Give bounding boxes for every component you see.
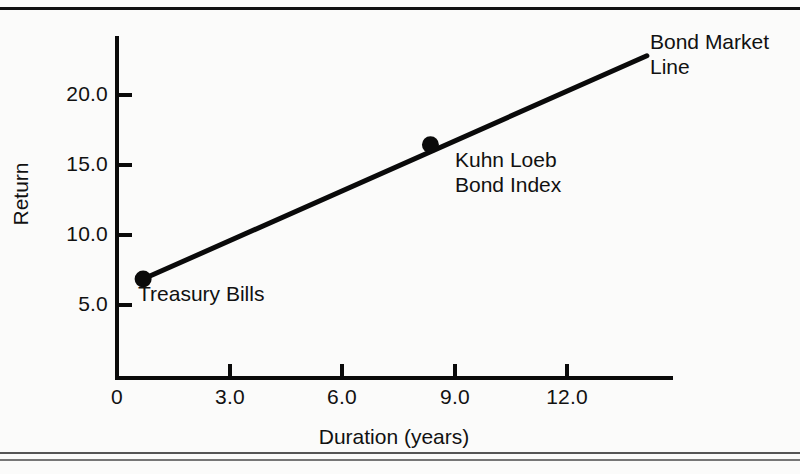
annotation-treasury-bills: Treasury Bills [138, 281, 264, 306]
annotation-kuhn-loeb-bond-index: Kuhn Loeb Bond Index [455, 147, 561, 197]
bond-market-line-series [143, 56, 647, 279]
bond-market-line-figure: 20.0 15.0 10.0 5.0 0 3.0 6.0 9.0 12.0 Du… [0, 0, 800, 474]
chart-plot-area: 20.0 15.0 10.0 5.0 0 3.0 6.0 9.0 12.0 Du… [0, 0, 800, 474]
annotation-bond-market-line: Bond Market Line [650, 29, 769, 79]
data-point-kuhn-loeb-bond-index [422, 136, 439, 153]
page-rule-bottom-1 [0, 452, 800, 454]
page-rule-bottom-2 [0, 459, 800, 461]
